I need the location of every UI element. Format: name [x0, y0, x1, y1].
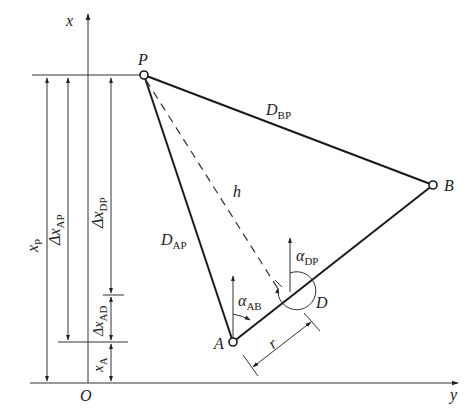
axis-y-label: y: [448, 386, 458, 404]
r-label: r: [265, 334, 281, 352]
point-D-label: D: [315, 294, 328, 311]
segment-AB: [233, 185, 433, 342]
point-P: [140, 71, 148, 79]
origin-label: O: [80, 387, 92, 404]
label-alpha-AB: αAB: [238, 292, 262, 312]
label-D-BP: DBP: [265, 101, 291, 121]
label-dxAP: ΔxAP: [46, 214, 66, 246]
segment-h-dashed: [146, 80, 280, 292]
point-A: [229, 338, 237, 346]
point-B-label: B: [444, 177, 454, 194]
label-dxAD: ΔxAD: [91, 306, 109, 337]
label-dxDP: ΔxDP: [89, 197, 109, 229]
dim-r: [243, 313, 320, 376]
label-xP: xP: [24, 239, 44, 253]
label-xA: xA: [90, 357, 109, 373]
point-A-label: A: [213, 335, 224, 352]
segment-PA: [144, 75, 233, 342]
point-P-label: P: [137, 51, 148, 68]
point-B: [429, 181, 437, 189]
label-D-AP: DAP: [160, 231, 187, 251]
axis-x-label: x: [65, 12, 73, 29]
h-label: h: [233, 183, 241, 200]
diagram-canvas: x y O P B A D h r DBP DAP αAB αDP xP ΔxA…: [0, 0, 472, 416]
segment-PB: [144, 75, 433, 185]
label-alpha-DP: αDP: [296, 247, 318, 267]
